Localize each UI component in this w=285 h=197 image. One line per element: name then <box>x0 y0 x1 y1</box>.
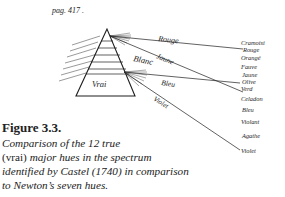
bleu-beam <box>124 72 240 83</box>
hue-item: Orangé <box>241 54 262 61</box>
hue-item: Verd <box>241 85 253 92</box>
caption-line-2: (vrai) major hues in the spectrum <box>2 150 192 164</box>
figure-caption: Figure 3.3. Comparison of the 12 true (v… <box>2 120 192 192</box>
castel-hue-list: Cramoisi Rouge Orangé Fauve Jaune Olive … <box>240 39 265 154</box>
hue-item: Cramoisi <box>241 39 265 46</box>
caption-line-4: to Newton’s seven hues. <box>2 178 192 192</box>
hue-item: Jaune <box>242 71 257 78</box>
caption-body: Comparison of the 12 true (vrai) major h… <box>2 136 192 192</box>
hue-item: Olive <box>242 78 256 85</box>
label-violet: Violet <box>152 95 171 111</box>
label-rouge: Rouge <box>157 34 180 46</box>
hue-item: Violet <box>241 147 256 154</box>
hue-item: Fauve <box>240 63 257 70</box>
label-jaune: Jaune <box>155 52 176 67</box>
caption-line-2-rest: major hues in the spectrum <box>27 151 152 163</box>
hue-item: Agathe <box>241 132 260 139</box>
caption-line-1: Comparison of the 12 true <box>2 136 192 150</box>
caption-vrai: (vrai) <box>2 151 27 163</box>
prism-label: Vrai <box>92 79 107 89</box>
caption-title: Figure 3.3. <box>2 120 192 135</box>
hue-item: Rouge <box>242 46 259 53</box>
hue-item: Bleu <box>242 106 254 113</box>
label-blanc: Blanc <box>133 53 155 67</box>
page-label: pag. 417 . <box>51 6 84 15</box>
hue-item: Violant <box>241 118 260 125</box>
caption-line-3: identified by Castel (1740) in compariso… <box>2 164 192 178</box>
label-bleu: Bleu <box>161 78 176 89</box>
hue-item: Celadon <box>241 95 263 102</box>
